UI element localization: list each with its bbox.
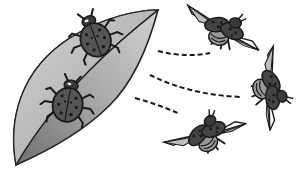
flying-ladybug-icon [181, 4, 264, 55]
flying-ladybug-icon [163, 97, 249, 173]
illustration-svg [0, 0, 304, 179]
dashed-path [158, 51, 210, 55]
flying-ladybug-icon [238, 46, 300, 132]
flight-paths [135, 51, 242, 114]
dashed-path [135, 98, 180, 114]
dashed-path [150, 75, 242, 97]
illustration-canvas [0, 0, 304, 179]
